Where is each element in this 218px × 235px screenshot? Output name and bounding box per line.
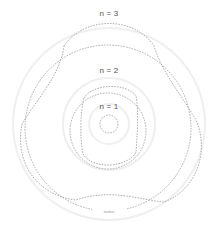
faint-ring-middle: [63, 78, 155, 170]
faint-ring-outer: [13, 28, 205, 220]
orbit-n1-circle: [100, 115, 118, 133]
orbit-diagram: n = 3 n = 2 n = 1 nucleus: [0, 0, 218, 235]
label-n2: n = 2: [99, 66, 118, 75]
faint-background-rings: [13, 28, 205, 220]
label-n3: n = 3: [99, 9, 118, 18]
bottom-caption: nucleus: [104, 210, 114, 214]
orbit-diagram-canvas: [0, 0, 218, 235]
label-n1: n = 1: [99, 102, 118, 111]
